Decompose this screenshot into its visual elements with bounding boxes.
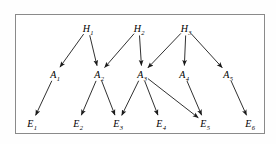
edge-h1-to-a1 (60, 34, 84, 67)
node-label-a1: A1 (50, 69, 59, 80)
node-label-h1: H1 (83, 23, 93, 34)
edge-h2-to-a3 (139, 35, 141, 65)
node-subscript-h1: 1 (90, 28, 93, 35)
node-label-h2: H2 (134, 23, 144, 34)
edge-h2-to-a2 (105, 34, 135, 68)
node-label-e2: E2 (73, 118, 82, 129)
edge-a2-to-e2 (81, 81, 96, 115)
edge-h3-to-a3 (148, 33, 181, 67)
node-subscript-a1: 1 (57, 74, 60, 81)
edge-h1-to-a2 (90, 35, 97, 65)
node-subscript-h2: 2 (141, 28, 144, 35)
node-label-e4: E4 (156, 118, 165, 129)
node-subscript-a4: 4 (186, 74, 189, 81)
edge-a2-to-e3 (102, 81, 115, 115)
node-label-h3: H3 (181, 23, 191, 34)
node-base-h2: H (134, 23, 141, 34)
node-subscript-e5: 5 (207, 123, 210, 130)
node-subscript-e2: 2 (80, 123, 83, 130)
edge-h3-to-a5 (191, 34, 222, 68)
node-subscript-e3: 3 (120, 123, 123, 130)
node-subscript-a3: 3 (144, 74, 147, 81)
node-label-a4: A4 (179, 69, 188, 80)
node-subscript-a5: 5 (230, 74, 233, 81)
node-label-e5: E5 (200, 118, 209, 129)
node-subscript-a2: 2 (101, 74, 104, 81)
node-label-e1: E1 (27, 118, 36, 129)
edge-a3-to-e3 (122, 81, 139, 116)
node-label-a3: A3 (137, 69, 146, 80)
node-label-a2: A2 (94, 69, 103, 80)
node-base-h1: H (83, 23, 90, 34)
node-subscript-e1: 1 (34, 123, 37, 130)
edge-a5-to-e6 (231, 81, 246, 115)
edge-a4-to-e5 (187, 81, 202, 115)
edge-a3-to-e5 (148, 79, 198, 118)
node-label-a5: A5 (223, 69, 232, 80)
node-label-e3: E3 (113, 118, 122, 129)
node-label-e6: E6 (245, 118, 254, 129)
figure-canvas: H1H2H3A1A2A3A4A5E1E2E3E4E5E6 (0, 0, 276, 144)
node-subscript-h3: 3 (188, 28, 191, 35)
node-subscript-e6: 6 (252, 123, 255, 130)
node-subscript-e4: 4 (163, 123, 166, 130)
edge-a1-to-e1 (36, 81, 52, 116)
edge-h3-to-a4 (184, 35, 185, 65)
node-base-h3: H (181, 23, 188, 34)
edge-a3-to-e4 (145, 81, 158, 115)
